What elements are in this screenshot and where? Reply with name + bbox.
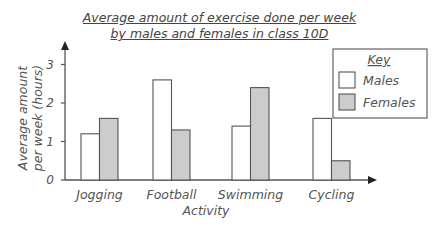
bar-jogging-females <box>100 118 119 180</box>
bar-jogging-males <box>81 134 100 180</box>
y-tick-label: 0 <box>46 173 54 187</box>
x-category-label: Jogging <box>73 187 123 202</box>
y-axis-label: Average amountper week (hours) <box>15 65 45 172</box>
y-tick-label: 1 <box>46 135 54 149</box>
legend-label-males: Males <box>363 73 400 88</box>
x-category-label: Football <box>147 187 197 202</box>
legend-swatch-females <box>339 94 355 110</box>
legend-swatch-males <box>339 72 355 88</box>
legend: KeyMalesFemales <box>333 49 427 118</box>
bar-swimming-females <box>251 88 270 180</box>
bar-football-males <box>153 80 172 180</box>
y-tick-label: 2 <box>46 96 54 110</box>
bar-football-females <box>172 130 191 180</box>
x-category-label: Swimming <box>218 187 283 202</box>
y-tick-label: 3 <box>46 58 54 72</box>
bar-cycling-females <box>332 161 351 180</box>
legend-title: Key <box>368 52 391 67</box>
legend-label-females: Females <box>363 95 416 110</box>
bar-chart: 0123Average amountper week (hours)Activi… <box>0 0 439 233</box>
bars <box>81 80 350 180</box>
x-axis-label: Activity <box>182 203 231 218</box>
x-axis-arrow-icon <box>368 176 377 184</box>
y-axis-arrow-icon <box>61 41 69 50</box>
x-category-label: Cycling <box>309 187 355 202</box>
bar-cycling-males <box>313 118 332 180</box>
bar-swimming-males <box>232 126 251 180</box>
